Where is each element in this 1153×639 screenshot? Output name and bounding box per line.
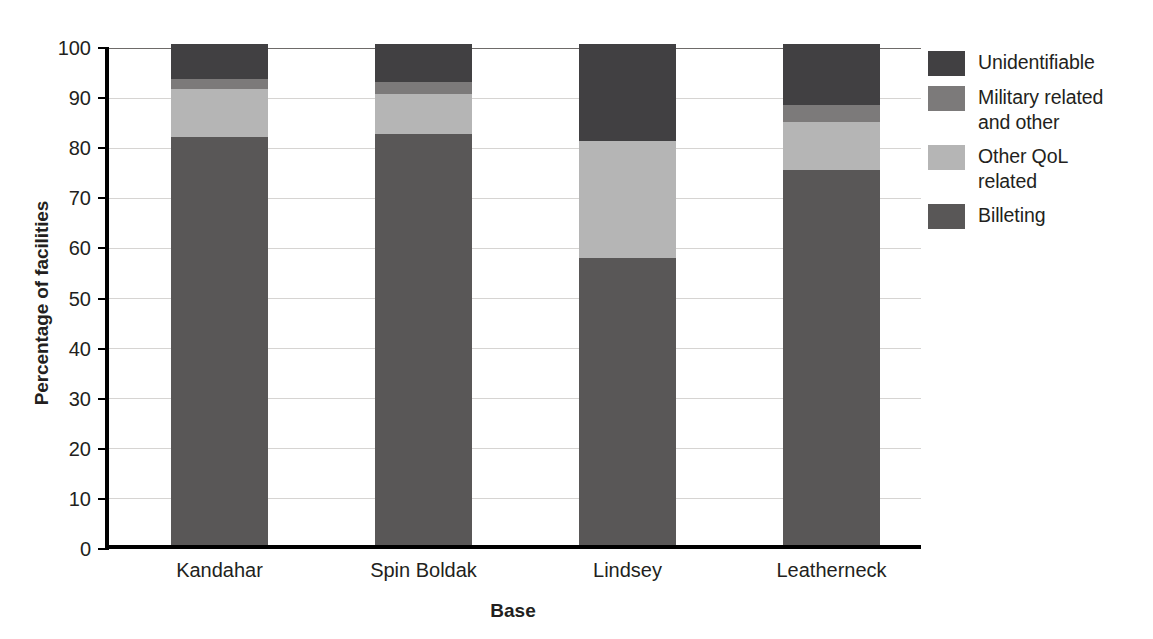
bar-segment (579, 44, 676, 141)
legend-swatch-icon (928, 145, 965, 170)
y-axis-tick-label: 60 (31, 238, 91, 258)
y-axis-tick (98, 498, 109, 500)
x-axis-title: Base (105, 600, 921, 622)
chart-legend: UnidentifiableMilitary related and other… (928, 50, 1143, 238)
y-axis-tick (98, 398, 109, 400)
legend-swatch-icon (928, 86, 965, 111)
bar-segment (375, 134, 472, 545)
bar-segment (375, 82, 472, 95)
y-axis-tick-label: 30 (31, 389, 91, 409)
legend-item-label: Other QoL related (978, 144, 1068, 194)
y-axis-tick (98, 448, 109, 450)
bar-kandahar[interactable]: Kandahar (171, 44, 268, 545)
legend-item-label: Unidentifiable (978, 50, 1095, 75)
y-axis-tick-label: 40 (31, 339, 91, 359)
bar-segment (783, 44, 880, 105)
bar-segment (579, 141, 676, 259)
bar-segment (171, 44, 268, 79)
plot-area: 0102030405060708090100KandaharSpin Bolda… (105, 48, 921, 549)
bar-segment (783, 122, 880, 171)
y-axis-tick-label: 70 (31, 188, 91, 208)
bar-segment (171, 137, 268, 545)
bar-segment (783, 105, 880, 122)
y-axis-tick-label: 0 (31, 539, 91, 559)
y-axis-tick-label: 90 (31, 88, 91, 108)
y-axis-tick (98, 97, 109, 99)
bar-segment (579, 258, 676, 545)
y-axis-tick (98, 348, 109, 350)
legend-item[interactable]: Military related and other (928, 85, 1143, 135)
bar-segment (171, 79, 268, 89)
bar-leatherneck[interactable]: Leatherneck (783, 44, 880, 545)
stacked-bar-chart: Percentage of facilities 010203040506070… (0, 0, 1153, 639)
plot-inner: 0102030405060708090100KandaharSpin Bolda… (109, 48, 921, 545)
legend-item-label: Billeting (978, 203, 1045, 228)
legend-item[interactable]: Other QoL related (928, 144, 1143, 194)
bar-segment (783, 170, 880, 545)
y-axis-tick (98, 197, 109, 199)
y-axis-tick (98, 298, 109, 300)
x-axis-tick-label: Leatherneck (712, 559, 952, 582)
legend-item[interactable]: Unidentifiable (928, 50, 1143, 76)
legend-swatch-icon (928, 204, 965, 229)
y-axis-tick-label: 10 (31, 489, 91, 509)
legend-swatch-icon (928, 51, 965, 76)
bar-lindsey[interactable]: Lindsey (579, 44, 676, 545)
legend-item-label: Military related and other (978, 85, 1103, 135)
y-axis-tick-label: 80 (31, 138, 91, 158)
bar-segment (375, 94, 472, 134)
y-axis-tick (98, 548, 109, 550)
legend-item[interactable]: Billeting (928, 203, 1143, 229)
y-axis-tick-label: 50 (31, 289, 91, 309)
y-axis-tick (98, 47, 109, 49)
bar-spin-boldak[interactable]: Spin Boldak (375, 44, 472, 545)
y-axis-tick-label: 100 (31, 38, 91, 58)
y-axis-tick (98, 147, 109, 149)
bar-segment (171, 89, 268, 137)
y-axis-tick-label: 20 (31, 439, 91, 459)
bar-segment (375, 44, 472, 82)
y-axis-tick (98, 247, 109, 249)
